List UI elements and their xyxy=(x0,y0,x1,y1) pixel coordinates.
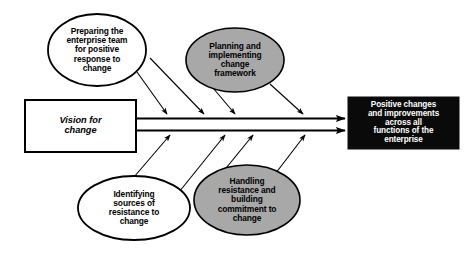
factor-ellipse-planning-framework xyxy=(186,28,284,92)
branch-arrow-planning-2 xyxy=(270,84,303,114)
vision-box xyxy=(25,100,136,152)
branch-arrow-preparing-1 xyxy=(137,72,167,114)
factor-ellipse-handling-resistance xyxy=(194,165,300,235)
outcome-box xyxy=(348,97,459,149)
diagram-graphics xyxy=(0,0,474,259)
factor-ellipse-identifying-resistance xyxy=(78,176,190,240)
factor-ellipse-preparing-team xyxy=(48,14,146,86)
diagram-canvas: Preparing the enterprise team for positi… xyxy=(0,0,474,259)
